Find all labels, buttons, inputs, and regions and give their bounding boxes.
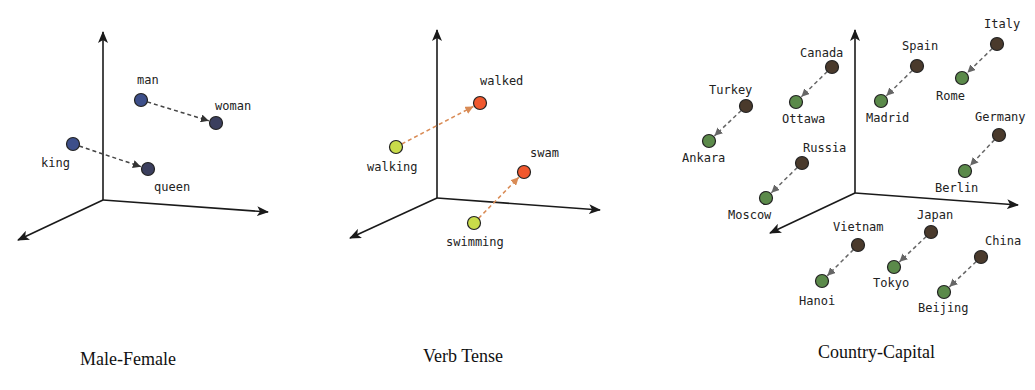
axis-left <box>18 200 103 240</box>
point-tokyo <box>888 261 901 274</box>
point-turkey <box>740 100 753 113</box>
point-walking <box>390 141 403 154</box>
point-beijing <box>938 286 951 299</box>
point-japan <box>925 226 938 239</box>
point-walked <box>474 97 487 110</box>
point-china <box>975 251 988 264</box>
point-canada <box>826 61 839 74</box>
axis-right <box>103 200 268 212</box>
label-rome: Rome <box>936 89 965 103</box>
label-china: China <box>985 234 1021 248</box>
point-ankara <box>703 135 716 148</box>
point-berlin <box>959 165 972 178</box>
point-woman <box>210 117 223 130</box>
point-swimming <box>468 217 481 230</box>
label-walking: walking <box>367 160 418 174</box>
relation-arrow <box>479 177 519 218</box>
label-swam: swam <box>530 146 559 160</box>
label-swimming: swimming <box>446 235 504 249</box>
point-hanoi <box>816 275 829 288</box>
label-tokyo: Tokyo <box>873 276 909 290</box>
relation-arrow <box>949 261 976 286</box>
relation-arrow <box>899 236 926 261</box>
relation-arrow <box>147 102 209 121</box>
panel-caption: Male-Female <box>80 349 176 369</box>
label-man: man <box>137 73 159 87</box>
panel-verb-tense: walkingwalkedswimmingswam <box>350 30 600 249</box>
label-beijing: Beijing <box>918 301 969 315</box>
point-ottawa <box>790 96 803 109</box>
label-spain: Spain <box>902 39 938 53</box>
point-king <box>67 138 80 151</box>
point-moscow <box>760 192 773 205</box>
label-walked: walked <box>480 74 523 88</box>
label-king: king <box>41 156 70 170</box>
point-vietnam <box>852 239 865 252</box>
relation-arrow <box>886 71 912 96</box>
point-madrid <box>875 95 888 108</box>
relation-arrow <box>827 250 853 276</box>
label-canada: Canada <box>800 46 843 60</box>
label-hanoi: Hanoi <box>799 294 835 308</box>
label-ankara: Ankara <box>682 151 725 165</box>
relation-arrow <box>771 168 797 193</box>
panel-male-female: manwomankingqueen <box>18 32 268 240</box>
label-italy: Italy <box>984 17 1020 31</box>
point-spain <box>911 60 924 73</box>
label-berlin: Berlin <box>935 181 978 195</box>
axis-right <box>437 198 600 210</box>
label-turkey: Turkey <box>709 83 752 97</box>
label-japan: Japan <box>917 208 953 222</box>
label-ottawa: Ottawa <box>782 112 825 126</box>
axis-left <box>350 198 437 238</box>
label-moscow: Moscow <box>728 208 772 222</box>
point-swam <box>518 166 531 179</box>
relation-arrow <box>79 146 141 167</box>
label-queen: queen <box>154 180 190 194</box>
point-rome <box>956 72 969 85</box>
panel-caption: Verb Tense <box>423 346 503 366</box>
relation-arrow <box>967 49 992 73</box>
label-germany: Germany <box>975 110 1026 124</box>
panel-caption: Country-Capital <box>818 342 935 362</box>
word-embedding-diagram: manwomankingqueenwalkingwalkedswimmingsw… <box>0 0 1035 390</box>
point-man <box>135 94 148 107</box>
point-germany <box>993 129 1006 142</box>
label-madrid: Madrid <box>866 111 909 125</box>
label-russia: Russia <box>803 141 846 155</box>
relation-arrow <box>970 140 994 166</box>
point-queen <box>142 163 155 176</box>
panel-country-capital: CanadaOttawaTurkeyAnkaraSpainMadridItaly… <box>682 17 1026 315</box>
relation-arrow <box>801 72 827 97</box>
point-italy <box>991 38 1004 51</box>
label-woman: woman <box>215 99 251 113</box>
label-vietnam: Vietnam <box>833 220 884 234</box>
relation-arrow <box>714 110 741 135</box>
point-russia <box>796 157 809 170</box>
